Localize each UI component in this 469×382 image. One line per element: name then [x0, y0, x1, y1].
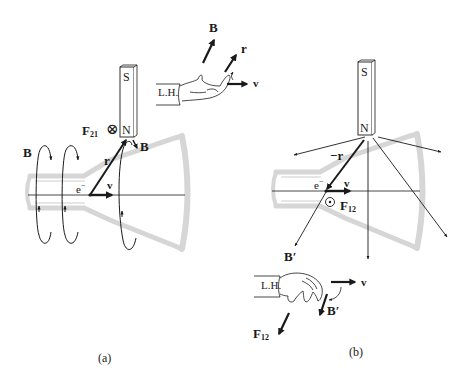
hand-force-arrow-b	[279, 313, 289, 334]
negative-position-label-b: −r	[330, 149, 343, 162]
velocity-label-b: v	[344, 178, 350, 189]
force-out-of-page-icon	[326, 198, 335, 207]
force-into-page-icon: ⊗	[106, 122, 119, 137]
magnet-field-arrow-a	[133, 140, 137, 148]
hand-label-b: L.H.	[261, 280, 281, 291]
magnet-south-pole-b: S	[361, 66, 368, 78]
magnet-north-pole-a: N	[122, 124, 131, 136]
hand-position-label-a: r	[241, 42, 247, 55]
field-label-b: B′	[284, 250, 296, 263]
magnet-field-label-a: B	[140, 140, 149, 153]
hand-velocity-label-a: v	[253, 78, 259, 89]
hand-velocity-label-b: v	[361, 277, 367, 288]
hand-rotation-arrow-b	[329, 287, 341, 300]
hand-position-arrow-a	[225, 55, 236, 72]
force-label-b: F12	[340, 199, 356, 214]
force-label-a: F21	[82, 124, 98, 139]
hand-label-a: L.H.	[158, 87, 178, 98]
hand-field-arrow-a	[203, 40, 214, 63]
velocity-label-a: v	[107, 180, 113, 191]
field-loops-a	[36, 141, 136, 249]
hand-force-label-b: F12	[253, 327, 269, 342]
caption-a: (a)	[98, 352, 111, 364]
panel-a	[27, 40, 247, 250]
hand-rotation-arrow-a	[232, 72, 234, 80]
magnet-north-pole-b: N	[360, 122, 369, 134]
position-label-a: r	[104, 154, 110, 167]
hand-field-label-a: B	[209, 21, 218, 34]
panel-b	[254, 60, 447, 334]
field-label-left-a: B	[23, 146, 32, 159]
electron-label-b: e−	[314, 178, 323, 191]
caption-b: (b)	[349, 346, 363, 358]
magnet-south-pole-a: S	[123, 71, 130, 83]
electron-label-a: e−	[76, 182, 85, 195]
figure-canvas	[0, 0, 469, 382]
hand-field-label-b: B′	[327, 304, 339, 317]
